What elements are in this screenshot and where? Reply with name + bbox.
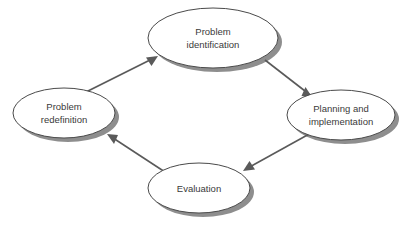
edge-redefinition-to-identification — [86, 56, 158, 92]
node-evaluation[interactable]: Evaluation — [148, 163, 250, 213]
node-label-line2: redefinition — [41, 114, 87, 125]
node-label-line1: Evaluation — [177, 183, 221, 194]
edge-layer — [86, 56, 312, 172]
edge-planning-to-evaluation — [243, 133, 311, 171]
edge-line — [265, 60, 310, 95]
edge-line — [110, 136, 165, 172]
node-problem-identification[interactable]: Problem identification — [148, 8, 278, 68]
edge-line — [246, 133, 311, 169]
node-problem-redefinition[interactable]: Problem redefinition — [13, 88, 115, 138]
node-planning-and-implementation[interactable]: Planning and implementation — [287, 90, 395, 140]
edge-line — [86, 58, 155, 93]
cycle-diagram: Problem identification Planning and impl… — [0, 0, 404, 230]
node-label-line1: Problem — [46, 101, 81, 112]
arrowhead-icon — [243, 161, 255, 171]
diagram-canvas: Problem identification Planning and impl… — [0, 0, 404, 230]
node-label-line2: identification — [187, 39, 240, 50]
node-label-line1: Problem — [195, 26, 230, 37]
node-label-line1: Planning and — [313, 103, 368, 114]
edge-identification-to-planning — [265, 60, 312, 97]
arrowhead-icon — [107, 134, 118, 144]
edge-evaluation-to-redefinition — [107, 134, 165, 172]
node-label-line2: implementation — [309, 116, 373, 127]
